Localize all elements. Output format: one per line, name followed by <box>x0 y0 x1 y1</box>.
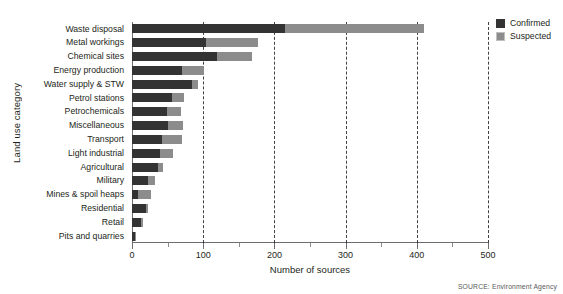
bar-segment-suspected[interactable] <box>172 93 184 102</box>
category-label: Petrol stations <box>22 91 128 105</box>
x-tick-major <box>488 243 489 249</box>
bar-row[interactable] <box>132 146 488 160</box>
stacked-bar[interactable] <box>132 176 155 185</box>
bar-row[interactable] <box>132 202 488 216</box>
stacked-bar[interactable] <box>132 218 143 227</box>
category-axis-labels: Waste disposalMetal workingsChemical sit… <box>22 22 128 243</box>
bar-segment-suspected[interactable] <box>138 190 152 199</box>
stacked-bar[interactable] <box>132 107 181 116</box>
x-tick-major <box>417 243 418 249</box>
bar-segment-suspected[interactable] <box>167 107 181 116</box>
stacked-bar[interactable] <box>132 190 151 199</box>
category-label: Retail <box>22 215 128 229</box>
legend-item[interactable]: Confirmed <box>496 18 551 28</box>
bar-row[interactable] <box>132 133 488 147</box>
bar-segment-confirmed[interactable] <box>132 38 206 47</box>
stacked-bar[interactable] <box>132 66 204 75</box>
category-label: Pits and quarries <box>22 229 128 243</box>
bar-row[interactable] <box>132 91 488 105</box>
x-tick-minor <box>168 243 169 247</box>
x-tick-minor <box>381 243 382 247</box>
bar-segment-suspected[interactable] <box>285 24 424 33</box>
bar-segment-suspected[interactable] <box>148 176 154 185</box>
x-tick-major <box>132 243 133 249</box>
stacked-bar[interactable] <box>132 52 252 61</box>
bar-segment-confirmed[interactable] <box>132 135 162 144</box>
bar-segment-confirmed[interactable] <box>132 163 158 172</box>
stacked-bar[interactable] <box>132 80 198 89</box>
x-tick-major <box>274 243 275 249</box>
x-tick-label: 300 <box>338 250 353 260</box>
category-label: Petrochemicals <box>22 105 128 119</box>
stacked-bar[interactable] <box>132 121 183 130</box>
stacked-bar[interactable] <box>132 163 163 172</box>
bar-row[interactable] <box>132 77 488 91</box>
bar-segment-confirmed[interactable] <box>132 204 146 213</box>
bar-segment-suspected[interactable] <box>160 149 173 158</box>
x-axis-title: Number of sources <box>132 264 488 275</box>
stacked-bar[interactable] <box>132 24 424 33</box>
source-note: SOURCE: Environment Agency <box>458 283 557 290</box>
stacked-bar[interactable] <box>132 135 182 144</box>
bar-segment-confirmed[interactable] <box>132 149 160 158</box>
bar-row[interactable] <box>132 229 488 243</box>
suspected-swatch <box>496 32 505 41</box>
chart-legend: ConfirmedSuspected <box>496 18 551 41</box>
stacked-bar[interactable] <box>132 93 184 102</box>
bar-segment-confirmed[interactable] <box>132 80 192 89</box>
bar-segment-suspected[interactable] <box>192 80 198 89</box>
bar-segment-suspected[interactable] <box>206 38 258 47</box>
bar-row[interactable] <box>132 119 488 133</box>
bar-segment-suspected[interactable] <box>182 66 204 75</box>
bar-segment-confirmed[interactable] <box>132 176 148 185</box>
bar-row[interactable] <box>132 22 488 36</box>
bar-segment-confirmed[interactable] <box>132 121 168 130</box>
x-axis-ticks <box>132 243 488 249</box>
category-label: Miscellaneous <box>22 119 128 133</box>
bar-segment-confirmed[interactable] <box>132 66 182 75</box>
legend-label: Suspected <box>510 31 551 41</box>
bar-series-container <box>132 22 488 243</box>
legend-item[interactable]: Suspected <box>496 31 551 41</box>
bar-segment-suspected[interactable] <box>162 135 182 144</box>
gridline <box>488 22 489 243</box>
bar-row[interactable] <box>132 160 488 174</box>
category-label: Metal workings <box>22 36 128 50</box>
x-axis-tick-labels: 0100200300400500 <box>132 250 488 262</box>
stacked-bar[interactable] <box>132 204 148 213</box>
bar-row[interactable] <box>132 63 488 77</box>
bar-segment-suspected[interactable] <box>217 52 252 61</box>
x-tick-minor <box>310 243 311 247</box>
bar-segment-confirmed[interactable] <box>132 218 141 227</box>
y-axis-title-label: Land use category <box>11 83 22 163</box>
category-label: Waste disposal <box>22 22 128 36</box>
x-tick-label: 200 <box>267 250 282 260</box>
bar-row[interactable] <box>132 188 488 202</box>
stacked-bar[interactable] <box>132 38 258 47</box>
bar-segment-confirmed[interactable] <box>132 24 285 33</box>
category-label: Transport <box>22 133 128 147</box>
bar-segment-suspected[interactable] <box>168 121 184 130</box>
x-tick-label: 0 <box>129 250 134 260</box>
bar-row[interactable] <box>132 36 488 50</box>
stacked-bar[interactable] <box>132 149 173 158</box>
bar-segment-suspected[interactable] <box>158 163 163 172</box>
bar-segment-suspected[interactable] <box>146 204 147 213</box>
bar-segment-confirmed[interactable] <box>132 52 217 61</box>
stacked-bar[interactable] <box>132 232 136 241</box>
bar-row[interactable] <box>132 215 488 229</box>
bar-row[interactable] <box>132 174 488 188</box>
bar-segment-confirmed[interactable] <box>132 107 167 116</box>
bar-row[interactable] <box>132 105 488 119</box>
x-tick-minor <box>452 243 453 247</box>
category-label: Energy production <box>22 63 128 77</box>
bar-row[interactable] <box>132 50 488 64</box>
x-tick-major <box>346 243 347 249</box>
category-label: Military <box>22 174 128 188</box>
bar-segment-confirmed[interactable] <box>132 93 172 102</box>
legend-label: Confirmed <box>510 18 550 28</box>
bar-segment-suspected[interactable] <box>141 218 142 227</box>
x-tick-label: 400 <box>409 250 424 260</box>
category-label: Mines & spoil heaps <box>22 188 128 202</box>
bar-segment-suspected[interactable] <box>135 232 136 241</box>
